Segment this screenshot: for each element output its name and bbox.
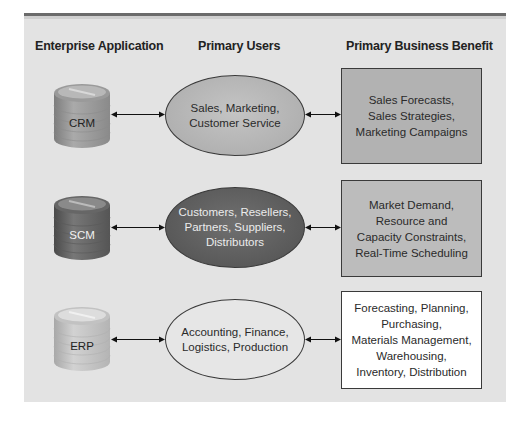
crm-users-benefit-arrow (305, 110, 341, 119)
header-primary-users: Primary Users (198, 39, 280, 53)
scm-database-icon: SCM (53, 195, 111, 261)
scm-business-benefit: Market Demand, Resource and Capacity Con… (341, 180, 482, 277)
header-primary-business-benefit: Primary Business Benefit (346, 39, 493, 53)
crm-business-benefit: Sales Forecasts, Sales Strategies, Marke… (341, 68, 482, 164)
scm-label: SCM (53, 229, 111, 241)
erp-app-users-arrow (111, 335, 165, 344)
erp-database-icon: ERP (53, 306, 111, 372)
erp-primary-users: Accounting, Finance, Logistics, Producti… (165, 299, 305, 380)
crm-database-icon: CRM (53, 83, 111, 149)
crm-app-users-arrow (111, 110, 165, 119)
crm-primary-users: Sales, Marketing, Customer Service (165, 75, 305, 156)
erp-users-benefit-arrow (305, 335, 341, 344)
erp-business-benefit: Forecasting, Planning, Purchasing, Mater… (341, 291, 482, 389)
scm-users-benefit-arrow (305, 223, 341, 232)
crm-label: CRM (53, 117, 111, 129)
header-enterprise-application: Enterprise Application (35, 39, 164, 53)
top-rule-shadow (24, 16, 506, 19)
scm-primary-users: Customers, Resellers, Partners, Supplier… (165, 187, 305, 268)
erp-label: ERP (53, 340, 111, 352)
scm-app-users-arrow (111, 223, 165, 232)
